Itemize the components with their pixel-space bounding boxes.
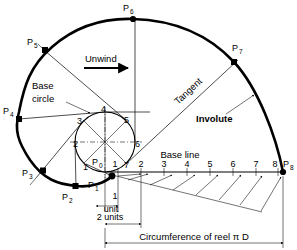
label-p8: P bbox=[283, 159, 289, 169]
diagram-canvas: P 0 P 1 P 2 P 3 P 4 P 5 P 6 P 7 P 8 1 2 … bbox=[0, 0, 297, 250]
label-p5: P bbox=[27, 37, 33, 47]
label-p7: P bbox=[232, 43, 238, 53]
label-p2: P bbox=[62, 192, 68, 202]
label-p2-sub: 2 bbox=[69, 197, 73, 204]
marker-p8 bbox=[280, 169, 286, 175]
circle-div-2: 2 bbox=[73, 139, 78, 149]
marker-p3 bbox=[40, 168, 46, 174]
label-p4: P bbox=[3, 106, 9, 116]
circle-div-3: 3 bbox=[77, 116, 82, 126]
circumference-label: Circumference of reel π D bbox=[139, 231, 249, 242]
marker-p7 bbox=[231, 59, 237, 65]
circle-div-6: 6 bbox=[135, 139, 140, 149]
marker-p5 bbox=[42, 47, 48, 53]
unwind-label: Unwind bbox=[85, 53, 117, 64]
tangent-label: Tangent bbox=[172, 75, 204, 106]
base-tick-2: 2 bbox=[138, 159, 143, 169]
involute-leader bbox=[226, 95, 254, 114]
base-tick-5: 5 bbox=[207, 159, 212, 169]
hatch-wedge bbox=[108, 174, 281, 212]
one-unit-number: 1 bbox=[112, 191, 117, 201]
base-circle-label-line1: Base bbox=[32, 80, 54, 91]
two-units-label: 2 units bbox=[97, 212, 124, 222]
involute-label: Involute bbox=[196, 113, 232, 124]
label-p6: P bbox=[123, 3, 129, 13]
circle-div-7: 7 bbox=[124, 160, 129, 170]
base-line-tick-labels: 1 2 3 4 5 6 7 8 bbox=[112, 159, 277, 169]
marker-p4 bbox=[16, 116, 22, 122]
radius-3 bbox=[84, 121, 105, 142]
label-p0-sub: 0 bbox=[99, 162, 103, 169]
base-circle-leader bbox=[66, 102, 90, 113]
base-line-label: Base line bbox=[160, 149, 199, 160]
label-p7-sub: 7 bbox=[239, 48, 243, 55]
base-circle-label-line2: circle bbox=[32, 93, 54, 104]
label-p3-sub: 3 bbox=[29, 173, 33, 180]
label-p5-sub: 5 bbox=[34, 42, 38, 49]
base-tick-3: 3 bbox=[161, 159, 166, 169]
marker-p1 bbox=[109, 173, 116, 180]
base-tick-6: 6 bbox=[230, 159, 235, 169]
marker-p6 bbox=[130, 16, 136, 22]
base-tick-7: 7 bbox=[253, 159, 258, 169]
circle-div-5: 5 bbox=[124, 115, 129, 125]
label-p1-sub: 1 bbox=[95, 185, 99, 192]
label-p8-sub: 8 bbox=[290, 164, 294, 171]
circle-div-1: 1 bbox=[83, 162, 88, 172]
label-p0: P bbox=[92, 157, 98, 167]
involute-diagram: P 0 P 1 P 2 P 3 P 4 P 5 P 6 P 7 P 8 1 2 … bbox=[0, 0, 297, 250]
base-tick-4: 4 bbox=[184, 159, 189, 169]
label-p4-sub: 4 bbox=[10, 111, 14, 118]
involute-leader-line bbox=[226, 95, 254, 114]
radius-5 bbox=[105, 121, 126, 142]
label-p6-sub: 6 bbox=[130, 8, 134, 15]
base-tick-8: 8 bbox=[272, 159, 277, 169]
base-tick-1: 1 bbox=[112, 159, 117, 169]
label-p3: P bbox=[22, 168, 28, 178]
circle-div-4: 4 bbox=[101, 104, 106, 114]
label-p1: P bbox=[88, 180, 94, 190]
circle-division-labels: 1 2 3 4 5 6 7 bbox=[73, 104, 140, 172]
base-circle-leader-line bbox=[66, 102, 90, 113]
marker-p2 bbox=[73, 183, 79, 189]
hatch-baseline bbox=[108, 174, 262, 212]
